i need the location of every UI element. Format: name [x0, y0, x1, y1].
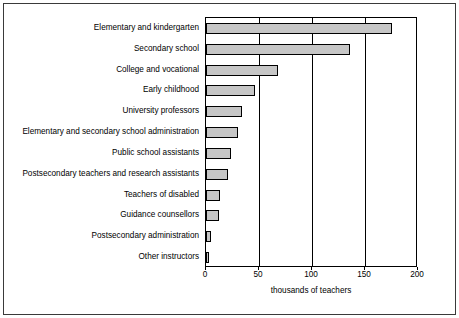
bar — [206, 148, 231, 159]
x-tick-label: 200 — [410, 270, 424, 279]
category-label: College and vocational — [116, 64, 199, 75]
bar — [206, 210, 219, 221]
bar — [206, 252, 209, 263]
bar — [206, 190, 220, 201]
x-tick-label: 150 — [357, 270, 371, 279]
bar — [206, 231, 211, 242]
category-axis-labels: Elementary and kindergartenSecondary sch… — [6, 17, 203, 267]
bar — [206, 65, 278, 76]
category-label: Teachers of disabled — [124, 189, 199, 200]
plot-area — [205, 17, 417, 267]
category-label: Other instructors — [138, 251, 199, 262]
bar-chart-figure: Elementary and kindergartenSecondary sch… — [0, 0, 459, 318]
x-axis-title: thousands of teachers — [205, 286, 417, 295]
category-label: Elementary and kindergarten — [94, 22, 199, 33]
category-label: Postsecondary teachers and research assi… — [22, 168, 199, 179]
bar — [206, 44, 350, 55]
x-tick-label: 100 — [304, 270, 318, 279]
bar — [206, 106, 242, 117]
bars-layer — [206, 18, 416, 266]
bar — [206, 85, 255, 96]
category-label: Elementary and secondary school administ… — [22, 126, 199, 137]
category-label: Early childhood — [143, 84, 199, 95]
category-label: Guidance counsellors — [120, 209, 199, 220]
category-label: University professors — [123, 105, 199, 116]
value-axis-ticks: 050100150200 — [205, 267, 417, 281]
category-label: Postsecondary administration — [92, 230, 199, 241]
x-tick-label: 0 — [203, 270, 208, 279]
bar — [206, 23, 392, 34]
bar — [206, 127, 238, 138]
x-tick-label: 50 — [253, 270, 262, 279]
bar — [206, 169, 228, 180]
category-label: Public school assistants — [112, 147, 199, 158]
category-label: Secondary school — [134, 43, 199, 54]
